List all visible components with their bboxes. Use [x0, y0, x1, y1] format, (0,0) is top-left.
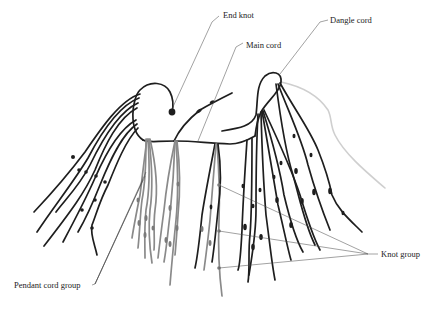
main-cord-branch — [174, 93, 232, 141]
label-end-knot: End knot — [223, 10, 254, 20]
label-pendant-cord-group: Pendant cord group — [14, 280, 81, 290]
left-cord-fan — [34, 94, 140, 255]
pendant-cord-group-2 — [158, 141, 180, 285]
pendant-cord-group-1 — [132, 139, 156, 263]
main-cord — [143, 136, 255, 144]
quipu-diagram — [0, 0, 436, 313]
label-knot-group: Knot group — [381, 249, 420, 259]
end-knot-loop — [133, 83, 173, 140]
leader-lines — [92, 16, 378, 285]
pendant-cord-group-3 — [195, 144, 222, 296]
label-dangle-cord: Dangle cord — [330, 15, 372, 25]
label-main-cord: Main cord — [246, 40, 281, 50]
end-knot — [169, 109, 176, 116]
